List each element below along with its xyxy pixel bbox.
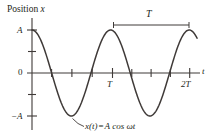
y-axis-title-variable: x (41, 4, 45, 14)
x-axis-title: t (202, 67, 205, 76)
period-span-marker (114, 22, 190, 28)
x-tick-label-period: T (107, 80, 112, 89)
y-tick-label-negative-amplitude: −A (11, 112, 23, 121)
y-tick-label-zero: 0 (18, 68, 23, 77)
x-tick-label-two-periods: 2T (181, 80, 191, 89)
shm-position-time-figure: Position x A 0 −A T 2T t T x(t)=A cos ωt (0, 0, 214, 139)
y-axis-title-prefix: Position (7, 4, 41, 14)
equation-rhs: A cos ωt (105, 121, 136, 131)
period-span-label: T (146, 9, 152, 19)
y-axis-title: Position x (7, 5, 45, 15)
equation-leader-line (73, 119, 85, 127)
equation-lhs: x(t) (85, 121, 98, 131)
equation-equals: = (98, 121, 105, 131)
plot-area (0, 0, 214, 139)
equation-annotation: x(t)=A cos ωt (85, 122, 135, 131)
y-tick-label-amplitude: A (17, 26, 23, 35)
